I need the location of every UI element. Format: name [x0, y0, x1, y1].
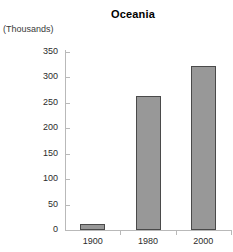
y-tick-label-wrap: 150: [0, 149, 58, 158]
y-tick-mark: [65, 77, 70, 78]
y-tick-mark: [65, 128, 70, 129]
y-tick-label-wrap: 250: [0, 98, 58, 107]
y-tick-label-wrap: 0: [0, 225, 58, 234]
y-tick-label-wrap: 100: [0, 174, 58, 183]
y-tick-label: 50: [2, 200, 58, 209]
x-tick-label: 1980: [125, 236, 171, 246]
y-axis-units-label: (Thousands): [3, 24, 54, 34]
y-tick-label: 350: [2, 47, 58, 56]
y-tick-label-wrap: 200: [0, 123, 58, 132]
y-tick-label: 250: [2, 98, 58, 107]
bar-chart: Oceania (Thousands) 05010015020025030035…: [0, 0, 233, 252]
x-tick-label: 1900: [70, 236, 116, 246]
y-tick-mark: [65, 103, 70, 104]
y-tick-label: 150: [2, 149, 58, 158]
y-tick-label: 100: [2, 174, 58, 183]
y-tick-label: 0: [2, 225, 58, 234]
x-tick-mark: [120, 230, 121, 235]
x-axis-line: [65, 230, 231, 231]
x-tick-mark: [231, 230, 232, 235]
y-tick-mark: [65, 205, 70, 206]
x-tick-mark: [176, 230, 177, 235]
y-tick-label: 300: [2, 72, 58, 81]
y-tick-label-wrap: 300: [0, 72, 58, 81]
x-tick-label: 2000: [180, 236, 226, 246]
y-tick-mark: [65, 230, 70, 231]
y-tick-mark: [65, 179, 70, 180]
chart-title: Oceania: [68, 8, 198, 20]
y-tick-label-wrap: 350: [0, 47, 58, 56]
y-tick-mark: [65, 52, 70, 53]
y-tick-label: 200: [2, 123, 58, 132]
bar: [191, 66, 216, 230]
y-tick-mark: [65, 154, 70, 155]
bar: [80, 224, 105, 230]
bar: [136, 96, 161, 230]
y-tick-label-wrap: 50: [0, 200, 58, 209]
